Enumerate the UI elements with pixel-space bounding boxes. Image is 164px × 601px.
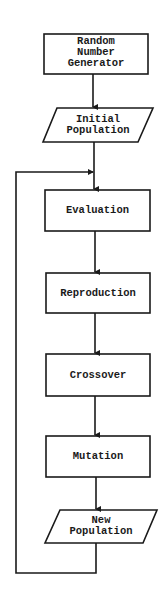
reproduction-label-text: Reproduction: [46, 288, 150, 299]
rng-label: Random Number Generator: [44, 36, 148, 69]
mutation-label: Mutation: [46, 451, 150, 462]
crossover-label: Crossover: [46, 370, 150, 381]
mutation-label-text: Mutation: [46, 451, 150, 462]
rng-label-line-3: Generator: [44, 58, 148, 69]
crossover-label-text: Crossover: [46, 370, 150, 381]
reproduction-label: Reproduction: [46, 288, 150, 299]
initial-population-label: Initial Population: [46, 114, 150, 136]
initial-label-line-2: Population: [46, 125, 150, 136]
evaluation-label: Evaluation: [45, 205, 150, 216]
new-population-label: New Population: [48, 515, 154, 537]
evaluation-label-text: Evaluation: [45, 205, 150, 216]
flowchart-canvas: [0, 0, 164, 601]
new-label-line-2: Population: [48, 526, 154, 537]
